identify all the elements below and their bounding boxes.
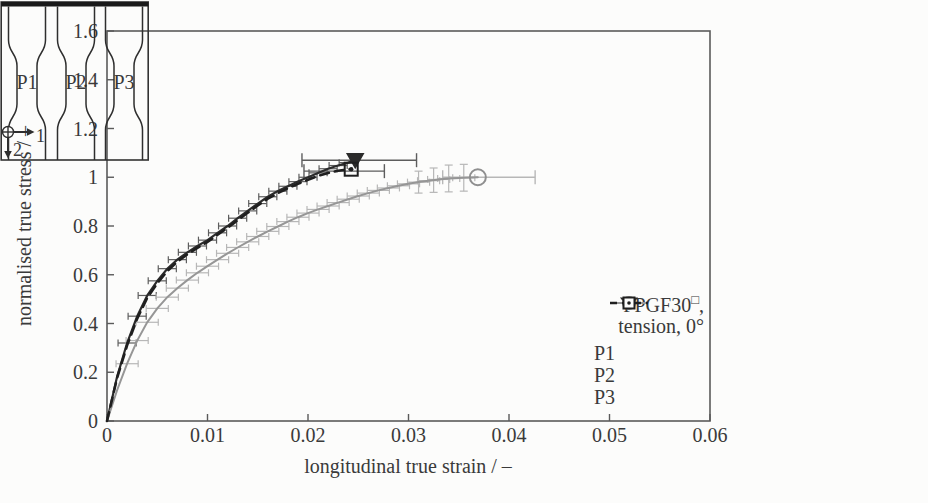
inset-clamp-band: [1, 2, 148, 7]
marker-P3-dot-icon: [349, 167, 353, 171]
legend-label-P2: P2: [594, 365, 615, 386]
x-tick-label: 0.01: [190, 424, 225, 446]
axis-2-label: 2: [13, 140, 22, 160]
specimen-inset-diagram: P1 P2 P3 1 2: [0, 0, 151, 164]
axis-1-arrowhead-icon: [27, 128, 35, 136]
legend-label-P1: P1: [594, 343, 615, 364]
curve-P1: [107, 160, 355, 421]
inset-label-p1: P1: [16, 71, 37, 93]
y-tick-label: 0: [88, 410, 98, 432]
legend-item-P2: P2: [582, 364, 708, 386]
legend: PPGF30□, tension, 0° P1P2P3: [582, 295, 708, 408]
legend-marker-P3: [610, 295, 648, 311]
x-tick-label: 0.06: [693, 424, 728, 446]
legend-square-dot-icon: [627, 301, 631, 305]
inset-label-p2: P2: [65, 71, 86, 93]
figure-stress-strain: 00.010.020.030.040.050.0600.20.40.60.811…: [0, 0, 928, 503]
x-tick-label: 0.04: [492, 424, 527, 446]
y-tick-label: 0.4: [73, 313, 98, 335]
x-axis-label: longitudinal true strain / –: [304, 455, 512, 478]
legend-title-condition: tension, 0°: [582, 316, 708, 337]
x-tick-label: 0: [102, 424, 112, 446]
specimen-outline-P2: [86, 7, 95, 161]
x-tick-label: 0.05: [592, 424, 627, 446]
legend-rows: P1P2P3: [582, 342, 708, 408]
error-bars-P2: [116, 164, 535, 367]
legend-label-P3: P3: [594, 387, 615, 408]
legend-material-suffix: ,: [699, 294, 704, 316]
error-bars-P1: [118, 153, 416, 346]
inset-label-p3: P3: [113, 71, 134, 93]
coordinate-system: 1 2: [2, 126, 45, 160]
legend-item-P1: P1: [582, 342, 708, 364]
y-tick-label: 0.2: [73, 361, 98, 383]
specimen-outline-P3: [134, 7, 143, 161]
x-tick-label: 0.03: [391, 424, 426, 446]
curve-P2: [107, 177, 478, 421]
y-tick-label: 0.8: [73, 215, 98, 237]
x-tick-label: 0.02: [291, 424, 326, 446]
y-tick-label: 1: [88, 166, 98, 188]
legend-item-P3: P3: [582, 386, 708, 408]
y-tick-label: 0.6: [73, 264, 98, 286]
legend-footnote-square-icon: □: [691, 292, 699, 307]
axis-2-arrowhead-icon: [4, 151, 12, 159]
axis-1-label: 1: [36, 126, 45, 146]
